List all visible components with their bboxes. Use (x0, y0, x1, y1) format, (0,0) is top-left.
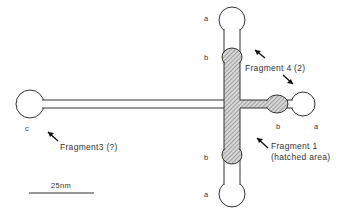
arrow-fragment4-upper (255, 50, 265, 58)
label-right-a: a (314, 122, 318, 131)
arrow-fragment4-lower (283, 75, 293, 84)
fragment4-label: Fragment 4 (2) (245, 63, 305, 73)
left-arm (16, 90, 225, 118)
label-bottom-a: a (204, 190, 208, 199)
label-bottom-b: b (204, 153, 208, 162)
arrow-fragment1 (257, 138, 268, 148)
fragment3-label: Fragment3 (?) (60, 142, 118, 152)
arrow-fragment3 (48, 132, 58, 141)
bottom-arm (219, 158, 245, 207)
fragment1-label-line1: Fragment 1 (271, 141, 317, 151)
fragment1-label-line2: (hatched area) (271, 152, 330, 162)
scale-bar-label: 25nm (51, 181, 71, 190)
label-left-c: c (25, 124, 29, 133)
label-top-b: b (204, 53, 208, 62)
label-right-b: b (276, 122, 280, 131)
label-top-a: a (204, 14, 208, 23)
right-arm (285, 92, 315, 116)
